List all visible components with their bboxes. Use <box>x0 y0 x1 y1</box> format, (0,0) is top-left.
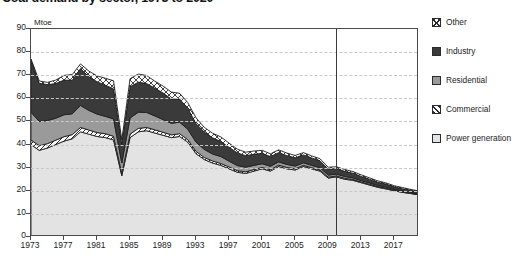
plot-inner <box>31 29 417 235</box>
x-axis-tick-mark <box>162 236 163 240</box>
x-axis-tick-mark <box>129 236 130 240</box>
x-axis-tick-label: 1973 <box>21 240 40 250</box>
grid-line <box>31 191 417 192</box>
y-axis-tick-label: 10 <box>0 207 26 217</box>
legend-swatch-power-icon <box>432 134 441 143</box>
y-axis-unit-label: Mtoe <box>34 18 52 27</box>
x-axis-tick-mark <box>63 236 64 240</box>
legend-item-residential[interactable]: Residential <box>432 74 532 86</box>
x-axis-tick-mark <box>228 236 229 240</box>
x-axis-tick-label: 2017 <box>384 240 403 250</box>
y-axis-tick-label: 60 <box>0 91 26 101</box>
legend-swatch-other-icon <box>432 18 441 27</box>
legend: OtherIndustryResidentialCommercialPower … <box>432 16 532 161</box>
legend-swatch-residential-icon <box>432 76 441 85</box>
legend-label: Industry <box>446 46 476 56</box>
x-axis-tick-label: 2013 <box>351 240 370 250</box>
x-axis-tick-label: 1993 <box>186 240 205 250</box>
y-axis-tick-label: 70 <box>0 68 26 78</box>
grid-line <box>31 145 417 146</box>
x-axis-tick-label: 2009 <box>318 240 337 250</box>
x-axis-tick-mark <box>195 236 196 240</box>
legend-label: Commercial <box>446 104 490 114</box>
x-axis-tick-mark <box>327 236 328 240</box>
legend-item-commercial[interactable]: Commercial <box>432 103 532 115</box>
x-axis-tick-mark <box>294 236 295 240</box>
y-axis-tick-label: 30 <box>0 161 26 171</box>
y-axis-tick-label: 40 <box>0 138 26 148</box>
x-axis-tick-label: 1977 <box>54 240 73 250</box>
grid-line <box>31 98 417 99</box>
x-axis-tick-mark <box>96 236 97 240</box>
projection-divider-line <box>336 29 337 235</box>
y-axis-tick-label: 50 <box>0 114 26 124</box>
plot-area <box>30 28 418 236</box>
grid-line <box>31 168 417 169</box>
y-axis-tick-label: 20 <box>0 184 26 194</box>
legend-label: Other <box>446 17 467 27</box>
x-axis-tick-mark <box>393 236 394 240</box>
legend-label: Residential <box>446 75 487 85</box>
x-axis-tick-mark <box>360 236 361 240</box>
legend-item-other[interactable]: Other <box>432 16 532 28</box>
chart-root: Coal demand by sector, 1973 to 2020 Mtoe… <box>0 0 532 280</box>
x-axis-tick-label: 1989 <box>153 240 172 250</box>
y-axis-tick-label: 0 <box>0 230 26 240</box>
x-axis-tick-label: 2001 <box>252 240 271 250</box>
x-axis-tick-mark <box>30 236 31 240</box>
x-axis-tick-label: 1981 <box>87 240 106 250</box>
x-axis-tick-mark <box>261 236 262 240</box>
grid-line <box>31 214 417 215</box>
y-axis-tick-label: 90 <box>0 22 26 32</box>
legend-swatch-industry-icon <box>432 47 441 56</box>
x-axis-tick-label: 1985 <box>120 240 139 250</box>
legend-label: Power generation <box>446 133 511 143</box>
legend-item-industry[interactable]: Industry <box>432 45 532 57</box>
grid-line <box>31 52 417 53</box>
x-axis-tick-label: 1997 <box>219 240 238 250</box>
grid-line <box>31 121 417 122</box>
y-axis-tick-label: 80 <box>0 45 26 55</box>
legend-item-power[interactable]: Power generation <box>432 132 532 144</box>
x-axis-tick-label: 2005 <box>285 240 304 250</box>
chart-title: Coal demand by sector, 1973 to 2020 <box>2 0 213 5</box>
legend-swatch-commercial-icon <box>432 105 441 114</box>
grid-line <box>31 75 417 76</box>
stacked-area-series <box>31 29 417 235</box>
